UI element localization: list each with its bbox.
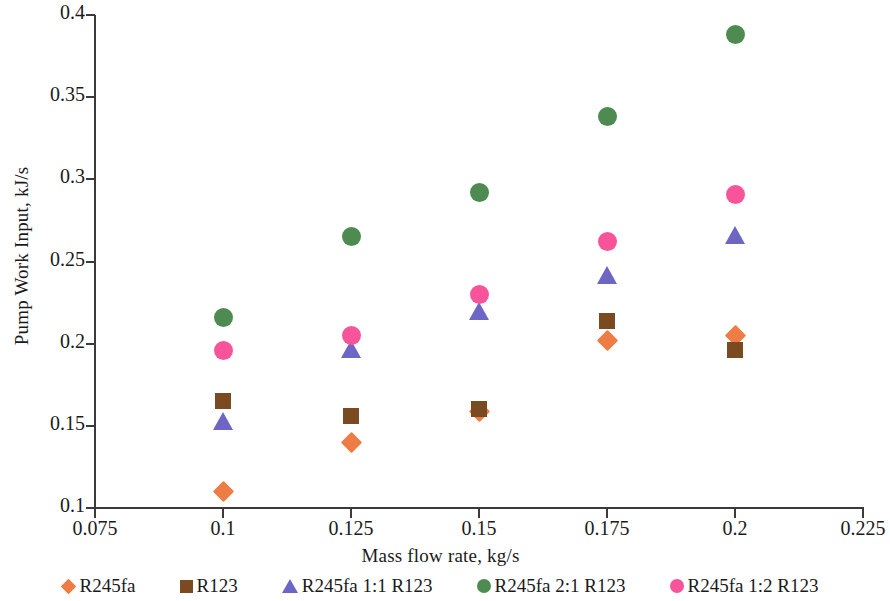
y-tick-label: 0.4 [13,1,85,24]
y-tick-mark [86,261,95,263]
data-point [598,232,617,251]
circle-marker-icon [477,579,491,593]
data-point [725,226,745,244]
data-point [599,313,615,329]
data-point [343,408,359,424]
data-point [214,308,233,327]
data-point [212,481,233,502]
data-point [342,227,361,246]
data-point [596,330,617,351]
data-point [470,285,489,304]
y-tick-mark [86,14,95,16]
legend-item-4[interactable]: R245fa 2:1 R123 [477,575,626,597]
y-tick-mark [86,96,95,98]
data-point [726,25,745,44]
legend-label: R245fa [80,575,136,597]
y-tick-mark [86,343,95,345]
data-point [598,107,617,126]
data-point [340,432,361,453]
y-tick-mark [86,425,95,427]
x-tick-label: 0.15 [424,517,534,540]
chart-legend: R245faR123R245fa 1:1 R123R245fa 2:1 R123… [0,572,881,600]
data-point [213,412,233,430]
data-point [470,183,489,202]
data-point [215,393,231,409]
y-tick-label: 0.15 [13,412,85,435]
plot-area [95,15,863,508]
x-tick-label: 0.175 [552,517,662,540]
y-tick-label: 0.35 [13,83,85,106]
data-point [342,326,361,345]
legend-item-5[interactable]: R245fa 1:2 R123 [670,575,819,597]
y-tick-label: 0.25 [13,248,85,271]
legend-label: R123 [197,575,238,597]
x-tick-label: 0.2 [680,517,790,540]
legend-label: R245fa 2:1 R123 [495,575,626,597]
data-point [214,341,233,360]
y-tick-label: 0.3 [13,165,85,188]
triangle-marker-icon [282,579,298,593]
data-point [727,342,743,358]
legend-item-3[interactable]: R245fa 1:1 R123 [282,575,433,597]
x-tick-label: 0.125 [296,517,406,540]
square-marker-icon [180,580,193,593]
legend-label: R245fa 1:1 R123 [302,575,433,597]
y-tick-label: 0.2 [13,330,85,353]
x-tick-label: 0.1 [168,517,278,540]
circle-marker-icon [670,579,684,593]
data-point [469,302,489,320]
x-tick-label: 0.075 [40,517,150,540]
x-axis-title: Mass flow rate, kg/s [0,545,881,567]
data-point [726,185,745,204]
legend-label: R245fa 1:2 R123 [688,575,819,597]
y-tick-mark [86,178,95,180]
legend-item-1[interactable]: R245fa [63,575,136,597]
x-tick-label: 0.225 [808,517,890,540]
legend-item-2[interactable]: R123 [180,575,238,597]
data-point [597,266,617,284]
diamond-marker-icon [60,578,76,594]
data-point [471,401,487,417]
y-tick-label: 0.1 [13,494,85,517]
